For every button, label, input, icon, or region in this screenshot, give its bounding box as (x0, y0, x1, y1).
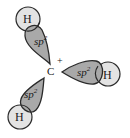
orbital-label-lower: sp (24, 88, 34, 100)
carbocation-diagram: H sp2 H sp2 H sp2 C + (0, 0, 130, 138)
orbital-lower-left: H sp2 (8, 78, 44, 129)
orbital-superscript-right: 2 (87, 65, 91, 73)
orbital-upper-left: H sp2 (16, 7, 50, 64)
orbital-right: H sp2 (62, 61, 120, 86)
orbital-superscript-upper: 2 (44, 34, 48, 42)
carbon-label: C (47, 65, 54, 77)
orbital-label-right: sp (77, 66, 87, 78)
hydrogen-label-upper: H (23, 12, 32, 26)
hydrogen-label-right: H (103, 68, 112, 82)
hydrogen-label-lower: H (15, 110, 24, 124)
orbital-superscript-lower: 2 (34, 87, 38, 95)
positive-charge-label: + (57, 55, 63, 66)
orbital-label-upper: sp (34, 35, 44, 47)
